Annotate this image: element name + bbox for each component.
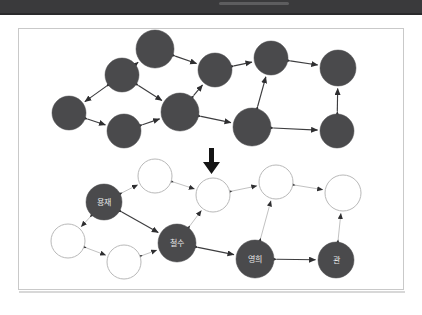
graph-node-label: 용재: [97, 198, 111, 207]
graph-edge: [201, 116, 231, 122]
graph-edge: [88, 119, 106, 125]
graph-edge: [190, 211, 201, 226]
nodes-graph-after: 용재철수영희관: [51, 159, 361, 279]
graph-node[interactable]: [325, 175, 361, 211]
graph-node[interactable]: [107, 245, 141, 279]
transform-down-arrow-icon: [203, 148, 220, 174]
graph-node[interactable]: [107, 114, 141, 148]
graph-edge: [174, 182, 195, 189]
graph-edge: [137, 62, 138, 63]
graph-node[interactable]: [320, 114, 354, 148]
graph-edge: [273, 128, 317, 130]
graph-edge: [295, 185, 323, 190]
graph-edge: [138, 85, 161, 100]
graph-edge: [290, 61, 317, 65]
graph-edge: [338, 213, 341, 239]
graph-edge: [81, 217, 90, 227]
graph-edge: [122, 212, 158, 232]
graph-node[interactable]: [259, 165, 293, 199]
graph-node[interactable]: [161, 93, 199, 131]
graph-edge: [142, 250, 156, 255]
graph-edge: [85, 86, 106, 101]
graph-node-label: 관: [333, 255, 341, 265]
graph-node[interactable]: [51, 224, 85, 258]
graph-edge: [261, 201, 271, 238]
graph-edge: [122, 185, 137, 193]
graph-node-label: 철수: [170, 238, 184, 248]
graph-edge: [86, 248, 105, 255]
graph-node[interactable]: [196, 178, 230, 212]
graph-edge: [234, 62, 252, 66]
graph-node[interactable]: [254, 41, 288, 75]
graph-edge: [232, 186, 257, 191]
graph-node[interactable]: [136, 30, 174, 68]
graph-edge: [142, 119, 159, 125]
graph-node-label: 영희: [248, 254, 262, 264]
page-root: 용재철수영희관: [0, 0, 422, 315]
graph-edge: [175, 56, 196, 63]
graph-node[interactable]: [320, 50, 356, 86]
graph-node[interactable]: [105, 58, 139, 92]
graph-node[interactable]: [52, 96, 86, 130]
graph-node[interactable]: [233, 108, 271, 146]
graph-node[interactable]: [138, 159, 172, 193]
graph-edge: [194, 85, 203, 96]
graph-node[interactable]: [198, 53, 232, 87]
graphs-svg: 용재철수영희관: [0, 0, 422, 315]
graph-canvas: 용재철수영희관: [0, 0, 422, 315]
graph-edge: [258, 77, 266, 106]
graph-edge: [198, 247, 234, 254]
